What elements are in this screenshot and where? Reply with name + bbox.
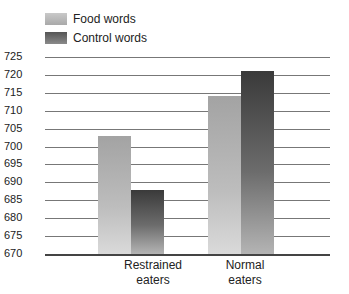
y-tick-label: 680 xyxy=(4,211,38,223)
y-tick-label: 670 xyxy=(4,247,38,259)
category-label-line: Restrained xyxy=(108,258,198,273)
legend-label-food: Food words xyxy=(73,12,136,26)
y-tick-label: 700 xyxy=(4,140,38,152)
x-axis-line xyxy=(45,254,330,256)
gridline xyxy=(45,236,330,237)
legend-item-food: Food words xyxy=(45,12,136,26)
gridline xyxy=(45,75,330,76)
legend-swatch-food xyxy=(45,13,67,25)
legend-item-control: Control words xyxy=(45,31,147,45)
category-label-normal: Normal eaters xyxy=(200,258,290,288)
category-label-line: Normal xyxy=(200,258,290,273)
y-tick-label: 720 xyxy=(4,68,38,80)
gridline xyxy=(45,111,330,112)
category-label-line: eaters xyxy=(200,273,290,288)
gridline xyxy=(45,129,330,130)
legend-label-control: Control words xyxy=(73,31,147,45)
y-tick-label: 705 xyxy=(4,122,38,134)
gridline xyxy=(45,93,330,94)
bar-control-0 xyxy=(131,190,164,254)
gridline xyxy=(45,147,330,148)
bar-food-0 xyxy=(98,136,131,254)
y-tick-label: 725 xyxy=(4,50,38,62)
category-label-restrained: Restrained eaters xyxy=(108,258,198,288)
gridline xyxy=(45,182,330,183)
gridline xyxy=(45,218,330,219)
bar-control-1 xyxy=(241,71,274,254)
category-label-line: eaters xyxy=(108,273,198,288)
y-tick-label: 695 xyxy=(4,157,38,169)
gridline xyxy=(45,164,330,165)
y-tick-label: 710 xyxy=(4,104,38,116)
y-tick-label: 675 xyxy=(4,229,38,241)
legend-swatch-control xyxy=(45,32,67,44)
gridline xyxy=(45,200,330,201)
bar-food-1 xyxy=(208,96,241,254)
y-tick-label: 685 xyxy=(4,193,38,205)
gridline xyxy=(45,57,330,58)
y-tick-label: 690 xyxy=(4,175,38,187)
y-tick-label: 715 xyxy=(4,86,38,98)
